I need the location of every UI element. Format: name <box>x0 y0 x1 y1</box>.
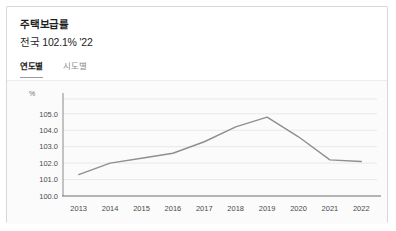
gridlines-group <box>63 99 377 180</box>
line-chart: 100.0101.0102.0103.0104.0105.0 201320142… <box>7 81 389 224</box>
x-axis-tick-label: 2022 <box>353 204 370 213</box>
tab-bar: 연도별 시도별 <box>20 60 86 78</box>
x-axis-tick-labels: 2013201420152016201720182019202020212022 <box>70 204 369 213</box>
y-axis-tick-label: 102.0 <box>39 159 58 168</box>
x-axis-tick-label: 2013 <box>70 204 87 213</box>
y-axis-tick-label: 104.0 <box>39 126 58 135</box>
x-axis-tick-label: 2018 <box>227 204 244 213</box>
x-axis-tick-label: 2015 <box>133 204 150 213</box>
x-axis-tick-label: 2021 <box>322 204 339 213</box>
tab-by-region[interactable]: 시도별 <box>63 60 86 77</box>
y-axis-tick-label: 103.0 <box>39 142 58 151</box>
y-axis-tick-label: 101.0 <box>39 175 58 184</box>
y-axis-tick-label: 100.0 <box>39 192 58 201</box>
chart-region: % 100.0101.0102.0103.0104.0105.0 2013201… <box>7 80 387 224</box>
tab-by-year[interactable]: 연도별 <box>20 60 43 78</box>
x-axis-tick-label: 2016 <box>165 204 182 213</box>
x-axis-tick-label: 2019 <box>259 204 276 213</box>
x-axis-tick-label: 2020 <box>290 204 307 213</box>
card-subtitle: 전국 102.1% '22 <box>20 35 387 50</box>
page-title: 주택보급률 <box>20 17 387 32</box>
x-axis-tick-label: 2017 <box>196 204 213 213</box>
y-axis-tick-labels: 100.0101.0102.0103.0104.0105.0 <box>39 110 58 201</box>
y-axis-tick-label: 105.0 <box>39 110 58 119</box>
x-axis-tick-label: 2014 <box>102 204 119 213</box>
housing-supply-rate-card: 주택보급률 전국 102.1% '22 연도별 시도별 % 100.0101.0… <box>6 6 388 223</box>
series-line-national <box>79 117 362 175</box>
